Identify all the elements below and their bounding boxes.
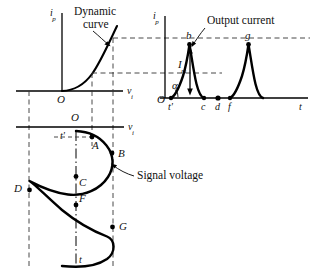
signal-voltage-origin-label: O [71, 112, 79, 123]
output-mark-t-prime-label: t' [168, 102, 173, 112]
dynamic-curve-path [62, 26, 117, 91]
output-peak-b-dot [187, 42, 192, 47]
output-mark-d-dot [215, 95, 220, 100]
output-mark-d-label: d [215, 102, 220, 112]
dynamic-curve-annotation-line1: Dynamic [74, 6, 116, 18]
signal-point-f-label: F [79, 193, 86, 204]
dynamic-curve-annotation-line2: curve [83, 19, 109, 31]
figure-svg [0, 0, 314, 278]
output-peak-g-dot [246, 42, 251, 47]
amplitude-arrow-head-down [187, 89, 193, 96]
signal-point-d-label: D [14, 183, 22, 194]
signal-voltage-x-axis-label: vi [128, 122, 134, 135]
signal-voltage-path [30, 131, 114, 267]
dynamic-curve-origin-label: O [57, 94, 65, 105]
output-current-x-axis-label: t [299, 102, 302, 112]
output-mark-t-prime-dot [169, 96, 173, 100]
output-current-y-axis-label: ip [153, 11, 159, 24]
signal-point-b-label: B [118, 148, 125, 159]
output-mark-c-label: c [201, 102, 205, 112]
signal-voltage-annotation: Signal voltage [137, 170, 203, 182]
signal-point-a-label: A [92, 140, 99, 151]
output-peak-g-label: g [245, 30, 251, 41]
signal-point-f-marker [74, 203, 79, 208]
signal-point-b-marker [110, 151, 115, 156]
output-current-annotation: Output current [207, 15, 274, 27]
output-amplitude-label: Im [178, 59, 187, 73]
output-mark-f-label: f [228, 102, 231, 112]
dynamic-curve-x-axis-label: vi [127, 86, 133, 99]
signal-point-d-marker [27, 188, 32, 193]
output-alpha-angle-label: α [172, 80, 178, 91]
signal-point-c-marker [74, 174, 79, 179]
dynamic-curve-y-axis-label: ip [50, 8, 56, 21]
output-pulse-second [230, 45, 263, 99]
output-peak-b-label: b [186, 30, 192, 41]
signal-voltage-t-prime-label: t' [60, 131, 65, 141]
figure-root: ip Dynamic curve Dynamic curve O vi O vi… [0, 0, 314, 278]
signal-voltage-t-axis-label: t [79, 255, 82, 265]
signal-point-g-label: G [119, 221, 127, 232]
output-mark-c-dot [202, 96, 206, 100]
signal-point-c-label: C [79, 177, 86, 188]
output-mark-f-dot [228, 96, 232, 100]
signal-point-g-marker [110, 225, 115, 230]
output-current-origin-label: O [157, 94, 165, 105]
